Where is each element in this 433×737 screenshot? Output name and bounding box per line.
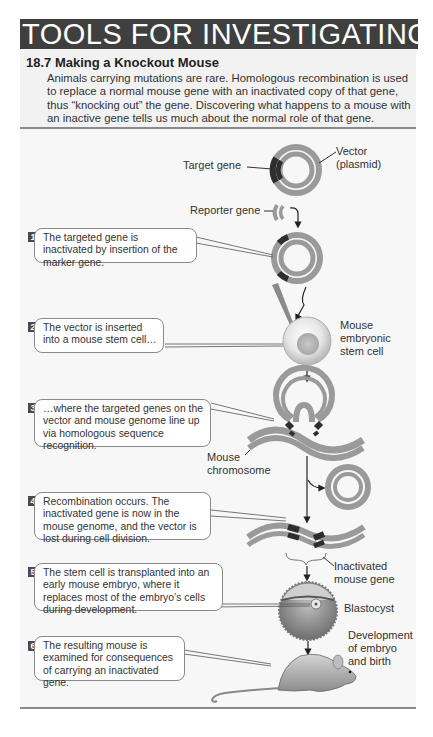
stem-cell-label: Mouse embryonic stem cell <box>340 319 391 358</box>
blastocyst-label: Blastocyst <box>344 602 394 615</box>
inactivated-gene-label: Inactivated mouse gene <box>334 560 395 586</box>
step-2-callout: The vector is inserted into a mouse stem… <box>34 318 164 353</box>
chromosome-label-line1: Mouse <box>207 451 271 464</box>
step-1-callout: The targeted gene is inactivated by inse… <box>34 228 197 263</box>
inactivated-plasmid <box>274 235 320 281</box>
gene-bracket <box>286 553 326 565</box>
recombined-chromosome <box>248 526 364 547</box>
homologous-alignment <box>249 368 363 458</box>
chromosome-label-line2: chromosome <box>207 464 271 477</box>
reporter-gene <box>275 205 283 220</box>
vector-plasmid <box>273 147 319 193</box>
development-label: Development of embryo and birth <box>348 629 413 668</box>
vector-label-line2: (plasmid) <box>336 158 381 171</box>
chromosome-label: Mouse chromosome <box>207 451 271 477</box>
step-5-callout: The stem cell is transplanted into an ea… <box>34 563 223 611</box>
vector-label: Vector (plasmid) <box>336 145 381 171</box>
stem-cell-label-line2: embryonic <box>340 332 391 345</box>
stem-cell-label-line3: stem cell <box>340 345 391 358</box>
inactivated-label-line2: mouse gene <box>334 573 395 586</box>
vector-label-line1: Vector <box>336 145 381 158</box>
step-4-callout: Recombination occurs. The inactivated ge… <box>34 492 211 540</box>
development-label-line3: and birth <box>348 655 413 668</box>
step-6-callout: The resulting mouse is examined for cons… <box>34 636 185 681</box>
reporter-gene-label: Reporter gene <box>190 204 260 217</box>
embryonic-stem-cell <box>283 317 331 365</box>
stem-cell-label-line1: Mouse <box>340 319 391 332</box>
knockout-diagram <box>0 0 433 737</box>
lost-vector <box>328 467 368 507</box>
development-label-line2: of embryo <box>348 642 413 655</box>
target-gene-label: Target gene <box>183 159 241 172</box>
blastocyst <box>279 582 337 640</box>
step-3-callout: …where the targeted genes on the vector … <box>34 399 211 447</box>
development-label-line1: Development <box>348 629 413 642</box>
inactivated-label-line1: Inactivated <box>334 560 395 573</box>
knockout-mouse <box>212 654 356 702</box>
